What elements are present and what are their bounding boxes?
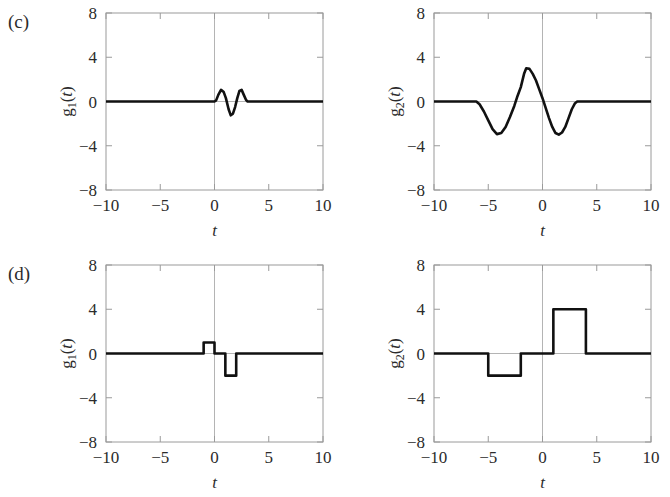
y-tick-label: 8 xyxy=(417,4,426,23)
x-tick-label: 10 xyxy=(643,196,660,215)
x-tick-label: 0 xyxy=(538,196,547,215)
y-axis-label: g1(t) xyxy=(57,338,79,369)
y-tick-label: −4 xyxy=(79,137,98,156)
y-tick-label: 4 xyxy=(417,48,426,67)
y-tick-label: 8 xyxy=(89,256,98,275)
x-axis-label: t xyxy=(540,221,546,240)
ylabel-close-paren: ) xyxy=(385,86,404,92)
x-tick-label: −10 xyxy=(421,448,448,467)
plot-d-left: −8−4048−10−50510tg1(t) xyxy=(57,256,332,492)
x-tick-label: 10 xyxy=(643,448,660,467)
x-tick-label: −5 xyxy=(479,448,497,467)
x-tick-label: −10 xyxy=(93,196,120,215)
y-axis-label: g2(t) xyxy=(385,86,407,117)
x-tick-label: 0 xyxy=(538,448,547,467)
y-tick-label: 0 xyxy=(417,93,426,112)
x-tick-label: −10 xyxy=(93,448,120,467)
y-tick-label: −4 xyxy=(407,389,426,408)
y-tick-label: 8 xyxy=(89,4,98,23)
plot-c-right: −8−4048−10−50510tg2(t) xyxy=(385,4,660,240)
y-tick-label: 0 xyxy=(89,93,98,112)
x-tick-label: −5 xyxy=(151,196,169,215)
plot-d-right: −8−4048−10−50510tg2(t) xyxy=(385,256,660,492)
x-tick-label: 5 xyxy=(593,448,602,467)
y-axis-label-text: g1(t) xyxy=(57,338,79,369)
y-axis-label: g1(t) xyxy=(57,86,79,117)
x-tick-label: 5 xyxy=(265,448,274,467)
x-tick-label: −5 xyxy=(479,196,497,215)
y-tick-label: 0 xyxy=(89,345,98,364)
y-axis-label-text: g2(t) xyxy=(385,86,407,117)
panel-tag-label: (d) xyxy=(8,263,30,285)
x-tick-label: 5 xyxy=(593,196,602,215)
ylabel-close-paren: ) xyxy=(57,86,76,92)
ylabel-close-paren: ) xyxy=(57,338,76,344)
y-tick-label: −4 xyxy=(407,137,426,156)
y-axis-label-text: g2(t) xyxy=(385,338,407,369)
x-tick-label: 10 xyxy=(315,448,332,467)
x-tick-label: −5 xyxy=(151,448,169,467)
ylabel-close-paren: ) xyxy=(385,338,404,344)
x-tick-label: −10 xyxy=(421,196,448,215)
y-tick-label: 8 xyxy=(417,256,426,275)
x-tick-label: 10 xyxy=(315,196,332,215)
y-tick-label: 0 xyxy=(417,345,426,364)
x-tick-label: 0 xyxy=(210,448,219,467)
plot-c-left: −8−4048−10−50510tg1(t) xyxy=(57,4,332,240)
y-tick-label: 4 xyxy=(89,48,98,67)
y-tick-label: −4 xyxy=(79,389,98,408)
y-tick-label: 4 xyxy=(89,300,98,319)
x-tick-label: 5 xyxy=(265,196,274,215)
panel-c: (c)−8−4048−10−50510tg1(t)−8−4048−10−5051… xyxy=(8,4,660,240)
figure-root: (c)−8−4048−10−50510tg1(t)−8−4048−10−5051… xyxy=(0,0,670,497)
panel-tag-label: (c) xyxy=(8,11,29,33)
x-tick-label: 0 xyxy=(210,196,219,215)
y-axis-label-text: g1(t) xyxy=(57,86,79,117)
y-axis-label: g2(t) xyxy=(385,338,407,369)
x-axis-label: t xyxy=(212,221,218,240)
panel-d: (d)−8−4048−10−50510tg1(t)−8−4048−10−5051… xyxy=(8,256,660,492)
x-axis-label: t xyxy=(540,473,546,492)
x-axis-label: t xyxy=(212,473,218,492)
y-tick-label: 4 xyxy=(417,300,426,319)
